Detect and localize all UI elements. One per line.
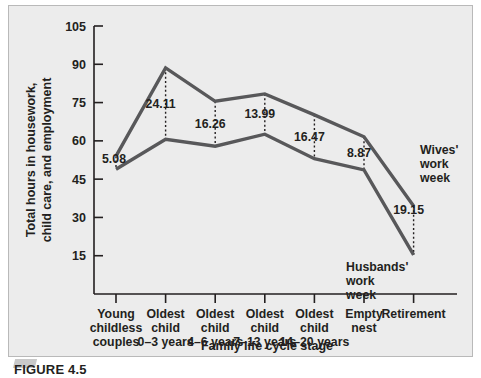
- y-tick-label: 30: [72, 211, 86, 225]
- y-axis-ticks: [94, 26, 103, 256]
- series-label-wives: Wives'workweek: [419, 143, 458, 185]
- series-label-husbands: Husbands'workweek: [345, 260, 408, 302]
- x-tick-label: Emptynest: [345, 307, 383, 335]
- difference-value-labels: 5.0824.1116.2613.9916.478.8719.15: [102, 97, 424, 218]
- y-tick-label: 60: [72, 134, 86, 148]
- difference-label: 16.26: [195, 117, 226, 131]
- x-tick-label: Youngchildlesscouples: [90, 307, 143, 349]
- x-tick-label: Retirement: [381, 307, 445, 321]
- difference-label: 24.11: [146, 97, 176, 111]
- figure-caption: FIGURE 4.5: [14, 362, 87, 377]
- series-inline-labels: Wives'workweekHusbands'workweek: [345, 143, 458, 302]
- chart-panel: 153045607590105 YoungchildlesscouplesOld…: [8, 5, 473, 357]
- difference-label: 16.47: [294, 130, 325, 144]
- x-tick-label: Oldestchild0–3 years: [138, 307, 194, 349]
- y-axis-title-second-line: child care, and employment: [40, 77, 54, 242]
- y-tick-label: 45: [72, 173, 86, 187]
- y-tick-label: 105: [65, 20, 86, 34]
- difference-label: 19.15: [393, 203, 424, 217]
- y-axis-tick-labels: 153045607590105: [65, 20, 86, 264]
- x-axis-title: Family life cycle stage: [201, 339, 333, 353]
- difference-label: 13.99: [244, 107, 275, 121]
- series-line-wives: [116, 68, 414, 206]
- difference-label: 8.87: [347, 146, 371, 160]
- y-tick-label: 90: [72, 58, 86, 72]
- y-tick-label: 15: [72, 249, 86, 263]
- y-tick-label: 75: [72, 96, 86, 110]
- line-chart: 153045607590105 YoungchildlesscouplesOld…: [9, 6, 472, 356]
- y-axis-title: Total hours in housework,: [24, 83, 38, 238]
- figure-container: 153045607590105 YoungchildlesscouplesOld…: [0, 0, 481, 378]
- difference-label: 5.08: [102, 152, 126, 166]
